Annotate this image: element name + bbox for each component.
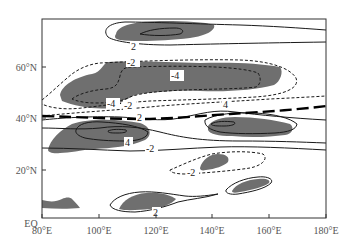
shade-mid-lat-negative (60, 62, 282, 109)
contour-label: -2 (127, 57, 135, 68)
x-tick-label: 180°E (313, 225, 338, 236)
contour-label: 4 (125, 137, 130, 148)
x-tick-label: 140°E (199, 225, 224, 236)
x-tick-label: 120°E (143, 225, 168, 236)
y-tick-label: 40°N (16, 113, 37, 124)
shade-15n (232, 179, 269, 193)
contour-label: -4 (107, 98, 115, 109)
x-tick-label: 160°E (256, 225, 281, 236)
x-tick-label: 100°E (86, 225, 111, 236)
shade-8n (119, 193, 176, 210)
contour-map-figure: 2 -2 -4 -4 -2 2 4 4 -2 -2 2 (0, 0, 352, 246)
contour-label: 2 (137, 112, 142, 123)
shade-eq-west (42, 198, 80, 209)
contour-label: 2 (131, 41, 136, 52)
y-axis-ticks (42, 67, 46, 170)
y-tick-label: 60°N (16, 62, 37, 73)
contour-label: -2 (124, 100, 132, 111)
shaded-regions (42, 21, 292, 210)
x-axis-ticks (42, 214, 326, 218)
y-axis-labels: EQ 20°N 40°N 60°N (16, 62, 39, 229)
contour-label: -2 (187, 167, 195, 178)
y-tick-label: 20°N (16, 165, 37, 176)
x-axis-labels: 80°E 100°E 120°E 140°E 160°E 180°E (32, 225, 339, 236)
contour-label: -2 (146, 143, 154, 154)
y-tick-label: EQ (24, 218, 38, 229)
contour-label: -4 (171, 70, 179, 81)
contour-label: 4 (223, 99, 228, 110)
